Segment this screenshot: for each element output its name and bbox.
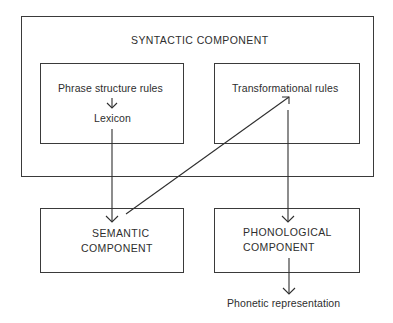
phonetic-representation-label: Phonetic representation: [227, 297, 340, 309]
phonological-component-line2: COMPONENT: [243, 241, 315, 253]
lexicon-label: Lexicon: [94, 112, 131, 124]
phonological-component-line1: PHONOLOGICAL: [243, 226, 332, 238]
semantic-component-line2: COMPONENT: [81, 242, 153, 254]
semantic-component-box: [40, 208, 184, 273]
phrase-structure-rules-label: Phrase structure rules: [58, 82, 163, 94]
transformational-rules-box: [214, 63, 360, 144]
semantic-component-line1: SEMANTIC: [92, 227, 149, 239]
syntactic-component-title: SYNTACTIC COMPONENT: [131, 34, 269, 46]
grammar-model-diagram: SYNTACTIC COMPONENT Phrase structure rul…: [0, 0, 393, 323]
transformational-rules-label: Transformational rules: [232, 82, 338, 94]
phrase-structure-box: [40, 63, 184, 144]
